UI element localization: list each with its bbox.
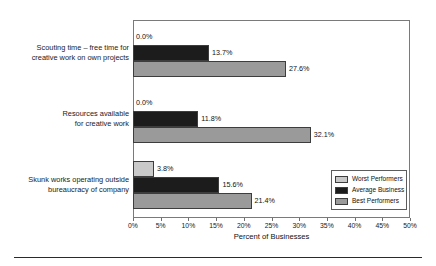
bar-value-label-average-1: 11.8% <box>201 115 221 123</box>
category-label-2-line-1: bureaucracy of company <box>0 185 129 195</box>
x-tick-label-5: 25% <box>265 222 279 230</box>
bar-value-label-best-0: 27.6% <box>289 65 309 73</box>
legend-label-worst-performers: Worst Performers <box>352 175 403 183</box>
bar-best-0 <box>133 61 286 77</box>
category-label-2-line-0: Skunk works operating outside <box>0 175 129 185</box>
x-tick-mark-4 <box>244 218 245 221</box>
chart-legend: Worst Performers Average Business Best P… <box>331 170 407 210</box>
legend-label-best-performers: Best Performers <box>352 197 399 205</box>
bar-value-label-average-2: 15.6% <box>222 181 242 189</box>
x-tick-label-8: 40% <box>348 222 362 230</box>
category-label-1-line-0: Resources available <box>0 109 129 119</box>
legend-label-average-business: Average Business <box>352 186 404 194</box>
legend-item-worst-performers: Worst Performers <box>335 174 403 184</box>
bar-best-2 <box>133 193 252 209</box>
bar-value-label-best-1: 32.1% <box>314 131 334 139</box>
x-tick-mark-7 <box>327 218 328 221</box>
x-tick-label-3: 15% <box>209 222 223 230</box>
x-tick-mark-1 <box>161 218 162 221</box>
x-tick-label-10: 50% <box>403 222 417 230</box>
legend-swatch-icon-average-business <box>335 187 348 194</box>
x-tick-label-9: 45% <box>375 222 389 230</box>
bar-average-0 <box>133 45 209 61</box>
bar-worst-2 <box>133 161 154 177</box>
category-label-2: Skunk works operating outsidebureaucracy… <box>0 175 129 194</box>
x-tick-mark-9 <box>382 218 383 221</box>
legend-swatch-icon-worst-performers <box>335 176 348 183</box>
bar-best-1 <box>133 127 311 143</box>
category-label-1: Resources availablefor creative work <box>0 109 129 128</box>
legend-item-average-business: Average Business <box>335 185 403 195</box>
chart-figure: Scouting time – free time forcreative wo… <box>0 0 436 266</box>
footer-divider <box>14 257 422 258</box>
x-tick-mark-10 <box>410 218 411 221</box>
bar-value-label-worst-1: 0.0% <box>136 99 152 107</box>
x-tick-mark-2 <box>188 218 189 221</box>
category-label-1-line-1: for creative work <box>0 119 129 129</box>
x-tick-mark-3 <box>216 218 217 221</box>
x-tick-mark-8 <box>355 218 356 221</box>
x-tick-label-4: 20% <box>237 222 251 230</box>
bar-value-label-worst-0: 0.0% <box>136 33 152 41</box>
x-tick-mark-0 <box>133 218 134 221</box>
bar-value-label-worst-2: 3.8% <box>157 165 173 173</box>
bar-average-2 <box>133 177 219 193</box>
x-tick-label-0: 0% <box>128 222 138 230</box>
legend-swatch-icon-best-performers <box>335 198 348 205</box>
x-tick-mark-6 <box>299 218 300 221</box>
x-tick-mark-5 <box>272 218 273 221</box>
x-axis-title: Percent of Businesses <box>133 232 410 241</box>
legend-item-best-performers: Best Performers <box>335 196 403 206</box>
bar-average-1 <box>133 111 198 127</box>
x-axis: 0%5%10%15%20%25%30%35%40%45%50% <box>133 218 410 232</box>
bar-value-label-average-0: 13.7% <box>212 49 232 57</box>
category-label-0-line-0: Scouting time – free time for <box>0 43 129 53</box>
x-tick-label-2: 10% <box>182 222 196 230</box>
category-label-0: Scouting time – free time forcreative wo… <box>0 43 129 62</box>
bar-value-label-best-2: 21.4% <box>255 197 275 205</box>
x-tick-label-7: 35% <box>320 222 334 230</box>
x-tick-label-6: 30% <box>292 222 306 230</box>
x-tick-label-1: 5% <box>156 222 166 230</box>
category-label-0-line-1: creative work on own projects <box>0 53 129 63</box>
